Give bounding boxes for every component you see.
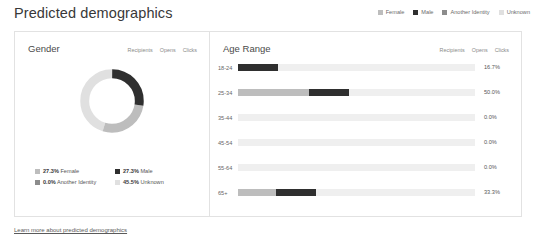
gender-label-female: Female [60, 168, 79, 174]
age-row: 45-54 0.0% [210, 138, 521, 163]
legend-item-another-identity: Another Identity [442, 9, 489, 15]
predicted-demographics-page: Predicted demographics Female Male Anoth… [0, 0, 536, 245]
age-range-bars: 18-24 16.7% 25-34 50.0% 35-44 [210, 54, 521, 213]
age-panel-header: Age Range Recipients Opens Clicks [210, 32, 521, 54]
gender-swatch-unknown [115, 180, 120, 185]
age-row-value: 0.0% [475, 138, 509, 145]
age-column-header-clicks: Clicks [495, 47, 509, 53]
age-bar-track [238, 139, 475, 146]
demographics-panels: Gender Recipients Opens Clicks [14, 31, 522, 217]
age-row: 35-44 0.0% [210, 113, 521, 138]
age-row: 65+ 33.3% [210, 188, 521, 213]
chart-legend: Female Male Another Identity Unknown [378, 9, 530, 15]
gender-panel-title: Gender [28, 43, 60, 54]
age-bar-track [238, 114, 475, 121]
age-row: 55-64 0.0% [210, 163, 521, 188]
gender-legend-item-another-identity: 0.0% Another Identity [35, 179, 115, 185]
gender-pct-female: 27.3% [43, 168, 59, 174]
gender-label-male: Male [140, 168, 152, 174]
age-bar-track [238, 164, 475, 171]
bar-segment-opens [238, 64, 278, 71]
gender-panel: Gender Recipients Opens Clicks [15, 32, 210, 216]
age-row-value: 33.3% [475, 188, 509, 195]
age-bar-track [238, 64, 475, 71]
gender-legend-text-another-identity: 0.0% Another Identity [43, 179, 96, 185]
age-row-label: 25-34 [218, 88, 238, 96]
bar-segment-opens [309, 89, 349, 96]
gender-panel-header: Gender Recipients Opens Clicks [15, 32, 209, 54]
age-row: 18-24 16.7% [210, 63, 521, 88]
column-header-opens: Opens [160, 47, 176, 53]
gender-label-unknown: Unknown [140, 179, 163, 185]
bar-segment-recipients [238, 189, 276, 196]
column-header-clicks: Clicks [183, 47, 197, 53]
donut-segment-male [85, 74, 140, 129]
age-row-value: 50.0% [475, 88, 509, 95]
legend-label-unknown: Unknown [507, 9, 530, 15]
age-row-label: 35-44 [218, 113, 238, 121]
gender-swatch-male [115, 169, 120, 174]
legend-label-female: Female [386, 9, 405, 15]
age-row-label: 55-64 [218, 163, 238, 171]
age-row-label: 45-54 [218, 138, 238, 146]
column-header-recipients: Recipients [128, 47, 153, 53]
age-row-label: 18-24 [218, 63, 238, 71]
legend-swatch-unknown [499, 10, 504, 15]
age-column-header-opens: Opens [472, 47, 488, 53]
age-row-value: 16.7% [475, 63, 509, 70]
gender-legend-item-female: 27.3% Female [35, 168, 115, 174]
legend-label-male: Male [421, 9, 433, 15]
donut-svg [76, 65, 148, 137]
gender-legend-text-unknown: 45.5% Unknown [123, 179, 164, 185]
age-bar-track [238, 189, 475, 196]
age-column-header-recipients: Recipients [440, 47, 465, 53]
legend-label-another-identity: Another Identity [450, 9, 489, 15]
age-row-label: 65+ [218, 188, 238, 196]
legend-swatch-another-identity [442, 10, 447, 15]
gender-legend-item-unknown: 45.5% Unknown [115, 179, 195, 185]
gender-pct-male: 27.3% [123, 168, 139, 174]
age-bar-track [238, 89, 475, 96]
gender-legend-item-male: 27.3% Male [115, 168, 195, 174]
gender-column-headers: Recipients Opens Clicks [128, 47, 197, 53]
learn-more-link[interactable]: Learn more about predicted demographics [14, 227, 127, 233]
page-title: Predicted demographics [14, 5, 173, 21]
gender-pct-unknown: 45.5% [123, 179, 139, 185]
age-row: 25-34 50.0% [210, 88, 521, 113]
legend-item-female: Female [378, 9, 405, 15]
age-panel-title: Age Range [223, 43, 271, 54]
age-row-value: 0.0% [475, 163, 509, 170]
gender-donut-chart [15, 65, 209, 137]
gender-swatch-female [35, 169, 40, 174]
gender-swatch-another-identity [35, 180, 40, 185]
gender-legend-text-male: 27.3% Male [123, 168, 153, 174]
gender-label-another-identity: Another Identity [57, 179, 96, 185]
age-column-headers: Recipients Opens Clicks [440, 47, 509, 53]
gender-legend: 27.3% Female 27.3% Male 0.0% Another Ide… [35, 168, 195, 190]
age-range-panel: Age Range Recipients Opens Clicks 18-24 … [210, 32, 521, 216]
legend-swatch-female [378, 10, 383, 15]
legend-swatch-male [413, 10, 418, 15]
gender-pct-another-identity: 0.0% [43, 179, 56, 185]
legend-item-unknown: Unknown [499, 9, 530, 15]
bar-segment-recipients [238, 89, 309, 96]
age-row-value: 0.0% [475, 113, 509, 120]
gender-legend-text-female: 27.3% Female [43, 168, 79, 174]
bar-segment-opens [276, 189, 316, 196]
legend-item-male: Male [413, 9, 433, 15]
